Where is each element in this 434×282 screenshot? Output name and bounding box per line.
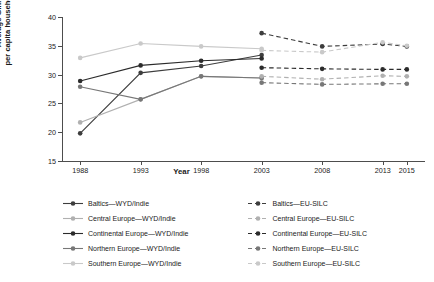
x-tick <box>80 161 81 165</box>
legend-label: Baltics—EU-SILC <box>273 199 328 208</box>
x-axis-line <box>62 161 425 162</box>
legend-label: Baltics—WYD/Indie <box>88 199 149 208</box>
data-point <box>380 73 385 78</box>
plot-area: 152025303540 198819931998200320082013201… <box>62 17 425 161</box>
x-tick <box>322 161 323 165</box>
series-line <box>80 76 262 122</box>
data-point <box>405 67 410 72</box>
legend-label: Continental Europe—WYD/Indie <box>88 229 188 238</box>
legend-swatch-icon <box>62 259 84 268</box>
data-point <box>78 56 83 61</box>
legend-label: Central Europe—WYD/Indie <box>88 214 176 223</box>
legend-swatch-icon <box>247 229 269 238</box>
legend-swatch-icon <box>62 244 84 253</box>
legend-item: Central Europe—EU-SILC <box>247 211 426 226</box>
data-point <box>138 41 143 46</box>
data-point <box>78 79 83 84</box>
figure: 152025303540 198819931998200320082013201… <box>0 0 434 282</box>
series-southern-europe-wyd <box>78 41 264 60</box>
x-tick-label: 2015 <box>399 166 415 175</box>
series-baltics-wyd <box>78 53 264 136</box>
legend-label: Northern Europe—WYD/Indie <box>88 244 180 253</box>
data-point <box>199 58 204 63</box>
x-tick <box>407 161 408 165</box>
data-point <box>138 63 143 68</box>
data-point <box>259 31 264 36</box>
y-tick-label: 40 <box>48 13 56 22</box>
series-continental-europe-eusilc <box>259 65 409 71</box>
y-tick-label: 20 <box>48 128 56 137</box>
legend-label: Central Europe—EU-SILC <box>273 214 355 223</box>
legend-label: Southern Europe—EU-SILC <box>273 259 361 268</box>
legend: Baltics—WYD/IndieBaltics—EU-SILCCentral … <box>62 196 425 271</box>
data-point <box>405 44 410 49</box>
x-tick <box>141 161 142 165</box>
series-northern-europe-wyd <box>78 74 264 102</box>
data-point <box>320 67 325 72</box>
y-tick <box>58 161 62 162</box>
legend-item: Baltics—EU-SILC <box>247 196 426 211</box>
y-tick-label: 15 <box>48 157 56 166</box>
data-point <box>259 48 264 53</box>
series-line <box>262 83 407 85</box>
series-central-europe-eusilc <box>259 73 409 81</box>
data-point <box>138 71 143 76</box>
data-point <box>405 82 410 87</box>
series-line <box>262 42 407 52</box>
series-line <box>80 55 262 133</box>
data-point <box>78 131 83 136</box>
x-tick <box>383 161 384 165</box>
data-point <box>320 44 325 49</box>
legend-item: Baltics—WYD/Indie <box>62 196 241 211</box>
x-tick <box>201 161 202 165</box>
series-baltics-eusilc <box>259 31 409 49</box>
legend-swatch-icon <box>62 199 84 208</box>
legend-item: Southern Europe—WYD/Indie <box>62 256 241 271</box>
data-point <box>199 44 204 49</box>
data-point <box>259 56 264 61</box>
data-series-layer <box>62 17 425 161</box>
x-axis-title: Year <box>0 167 363 176</box>
y-tick-label: 25 <box>48 99 56 108</box>
series-northern-europe-eusilc <box>259 80 409 86</box>
data-point <box>380 67 385 72</box>
series-southern-europe-eusilc <box>259 40 409 54</box>
y-axis-title: Average Gini index per capita household … <box>0 0 12 88</box>
legend-item: Continental Europe—WYD/Indie <box>62 226 241 241</box>
x-tick-label: 2013 <box>375 166 391 175</box>
data-point <box>259 80 264 85</box>
legend-label: Continental Europe—EU-SILC <box>273 229 368 238</box>
data-point <box>380 40 385 45</box>
series-line <box>262 33 407 46</box>
legend-item: Central Europe—WYD/Indie <box>62 211 241 226</box>
data-point <box>138 97 143 102</box>
legend-item: Continental Europe—EU-SILC <box>247 226 426 241</box>
y-tick-label: 30 <box>48 70 56 79</box>
legend-label: Northern Europe—EU-SILC <box>273 244 359 253</box>
data-point <box>259 65 264 70</box>
series-line <box>80 76 262 99</box>
legend-swatch-icon <box>247 259 269 268</box>
legend-swatch-icon <box>247 214 269 223</box>
data-point <box>78 84 83 89</box>
data-point <box>199 74 204 79</box>
data-point <box>78 120 83 125</box>
y-axis-title-line2: per capita household income <box>3 0 12 88</box>
y-tick-label: 35 <box>48 41 56 50</box>
legend-swatch-icon <box>62 214 84 223</box>
x-tick <box>262 161 263 165</box>
data-point <box>405 74 410 79</box>
data-point <box>320 77 325 82</box>
legend-swatch-icon <box>247 199 269 208</box>
series-line <box>262 76 407 79</box>
series-line <box>262 68 407 70</box>
legend-swatch-icon <box>247 244 269 253</box>
legend-item: Southern Europe—EU-SILC <box>247 256 426 271</box>
series-central-europe-wyd <box>78 74 264 125</box>
legend-swatch-icon <box>62 229 84 238</box>
data-point <box>380 82 385 87</box>
data-point <box>199 64 204 69</box>
data-point <box>259 74 264 79</box>
data-point <box>320 50 325 55</box>
legend-item: Northern Europe—WYD/Indie <box>62 241 241 256</box>
